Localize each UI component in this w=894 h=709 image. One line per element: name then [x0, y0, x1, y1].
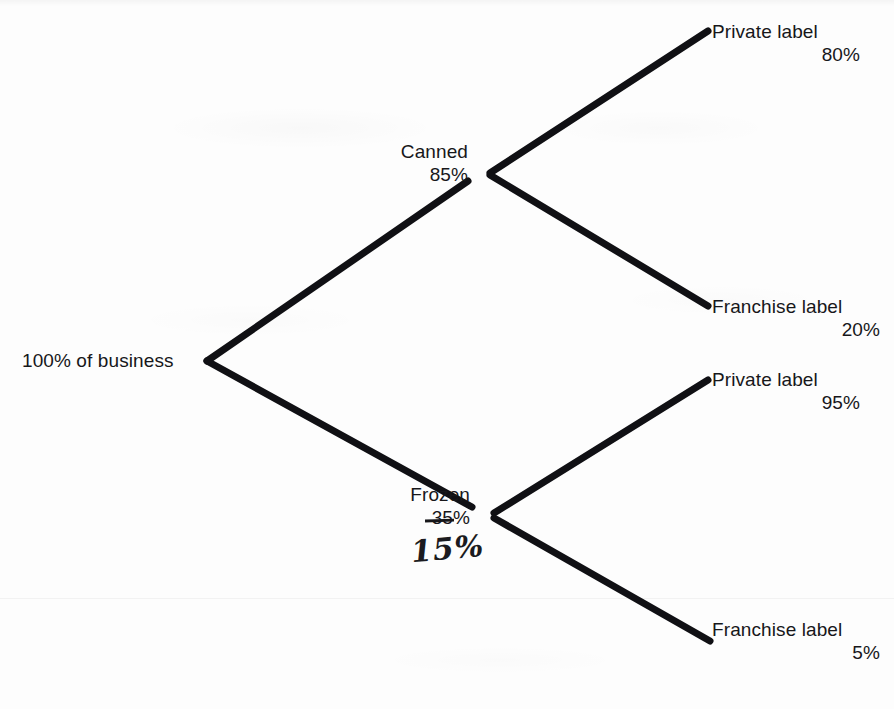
branch-frozen-to-franchise — [494, 518, 710, 641]
node-frozen: Frozen 35% — [340, 483, 470, 529]
diagram-page: 100% of business Canned 85% Frozen 35% 1… — [0, 0, 894, 709]
leaf-frozen-private: Private label 95% — [712, 368, 860, 414]
leaf-frozen-franchise: Franchise label 5% — [712, 618, 880, 664]
node-canned-label: Canned — [340, 140, 468, 163]
leaf-canned-private-label: Private label — [712, 20, 860, 43]
leaf-canned-franchise-label: Franchise label — [712, 295, 880, 318]
leaf-canned-private-percent: 80% — [712, 43, 860, 66]
node-root-label: 100% of business — [22, 349, 174, 372]
branch-frozen-to-private — [494, 380, 708, 513]
node-frozen-percent-original: 35% — [432, 506, 470, 529]
leaf-frozen-private-percent: 95% — [712, 391, 860, 414]
node-frozen-percent-struck: 35% — [340, 506, 470, 529]
handwritten-correction-15-percent: 15% — [410, 531, 486, 567]
leaf-frozen-franchise-percent: 5% — [712, 641, 880, 664]
node-canned-percent: 85% — [340, 163, 468, 186]
branch-canned-to-franchise — [490, 175, 708, 306]
leaf-frozen-private-label: Private label — [712, 368, 860, 391]
leaf-canned-franchise: Franchise label 20% — [712, 295, 880, 341]
leaf-canned-private: Private label 80% — [712, 20, 860, 66]
branch-canned-to-private — [490, 31, 708, 173]
node-root: 100% of business — [22, 349, 174, 372]
branch-root-to-canned — [207, 181, 468, 361]
leaf-canned-franchise-percent: 20% — [712, 318, 880, 341]
node-canned: Canned 85% — [340, 140, 468, 186]
leaf-frozen-franchise-label: Franchise label — [712, 618, 880, 641]
node-frozen-label: Frozen — [340, 483, 470, 506]
